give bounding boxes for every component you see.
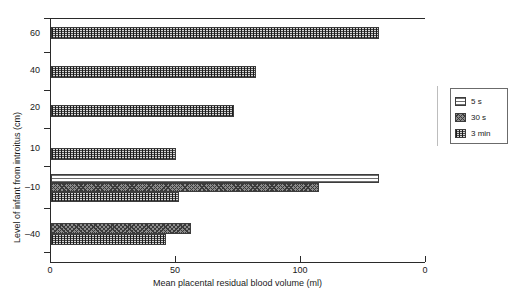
chart-legend: 5 s 30 s 3 min — [450, 88, 508, 144]
x-axis-title: Mean placental residual blood volume (ml… — [50, 278, 425, 288]
legend-item-30s[interactable]: 30 s — [455, 110, 503, 124]
legend-label: 30 s — [471, 113, 486, 122]
bar-3min--40 — [51, 234, 166, 245]
x-axis-label: 100 — [280, 265, 320, 275]
legend-divider — [437, 86, 438, 146]
y-axis-tick — [44, 18, 50, 19]
legend-item-3min[interactable]: 3 min — [455, 126, 503, 140]
legend-swatch-3min-icon — [455, 129, 466, 138]
x-axis-label: 0 — [30, 265, 70, 275]
y-axis-title: Level of infant from introitus (cm) — [12, 112, 22, 243]
x-axis-label: 50 — [155, 265, 195, 275]
x-axis-tick — [50, 256, 51, 262]
y-axis-tick — [44, 252, 50, 253]
bar-5s--10 — [51, 174, 379, 183]
legend-swatch-30s-icon — [455, 113, 466, 122]
bar-30s--40 — [51, 223, 191, 234]
chart-figure: 60 40 20 10 –10 –40 0 50 100 0 Mean plac… — [0, 0, 524, 295]
y-axis-tick — [44, 128, 50, 129]
y-axis-label: 40 — [6, 66, 40, 75]
x-axis-tick — [175, 256, 176, 262]
legend-label: 5 s — [471, 97, 482, 106]
bar-3min-40 — [51, 66, 256, 78]
bar-3min-20 — [51, 105, 234, 117]
bar-3min-10 — [51, 148, 176, 160]
y-axis-tick — [44, 90, 50, 91]
y-axis-label: 60 — [6, 29, 40, 38]
legend-item-5s[interactable]: 5 s — [455, 94, 503, 108]
plot-top-rule — [50, 18, 425, 19]
y-axis-tick — [44, 166, 50, 167]
legend-label: 3 min — [471, 129, 491, 138]
x-axis-label: 0 — [405, 265, 445, 275]
x-axis-tick — [425, 256, 426, 262]
plot-area: 60 40 20 10 –10 –40 0 50 100 0 Mean plac… — [0, 0, 524, 295]
x-axis-line — [50, 262, 425, 263]
y-axis-tick — [44, 208, 50, 209]
y-axis-label: 20 — [6, 103, 40, 112]
bar-3min--10 — [51, 192, 179, 202]
y-axis-tick — [44, 52, 50, 53]
bar-30s--10 — [51, 183, 319, 192]
x-axis-tick — [300, 256, 301, 262]
legend-swatch-5s-icon — [455, 97, 466, 106]
bar-3min-60 — [51, 27, 379, 39]
